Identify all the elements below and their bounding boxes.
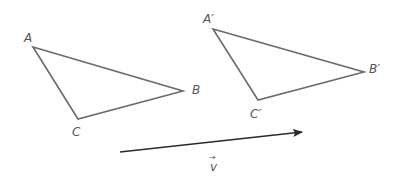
- translation-diagram: A B C A′ B′ C′ → v: [0, 0, 403, 176]
- label-c-prime: C′: [250, 107, 261, 121]
- label-b: B: [192, 83, 200, 97]
- triangle-abc: [33, 47, 183, 119]
- vector-v-label: v: [210, 160, 218, 174]
- label-a-prime: A′: [202, 12, 214, 26]
- triangle-a-prime-b-prime-c-prime: [213, 29, 364, 100]
- label-a: A: [23, 31, 32, 45]
- vector-v-arrow: [120, 132, 302, 152]
- label-b-prime: B′: [369, 62, 380, 76]
- label-c: C: [72, 125, 81, 139]
